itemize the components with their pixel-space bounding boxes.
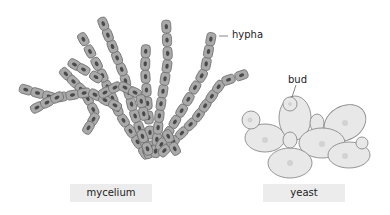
hypha-label: hypha — [232, 29, 263, 40]
bud-pointer-line — [292, 85, 296, 97]
mycelium-illustration — [18, 16, 249, 161]
yeast-illustration — [242, 85, 373, 178]
fungi-diagram — [0, 0, 390, 215]
bud-label: bud — [288, 74, 307, 85]
mycelium-caption: mycelium — [70, 184, 152, 202]
yeast-caption: yeast — [263, 184, 345, 202]
